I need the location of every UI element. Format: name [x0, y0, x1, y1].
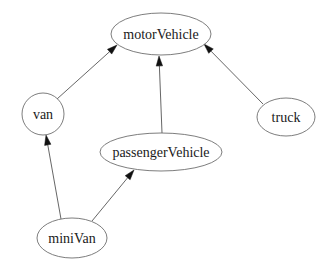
edge-line [48, 145, 61, 219]
node-miniVan: miniVan [37, 218, 107, 258]
edge-van-to-motorVehicle [57, 45, 117, 99]
edge-line [92, 178, 128, 221]
node-motorVehicle: motorVehicle [111, 13, 211, 55]
edge-line [159, 66, 162, 133]
edge-line [57, 52, 110, 99]
edge-truck-to-motorVehicle [204, 44, 263, 104]
node-label: truck [272, 110, 301, 125]
edges-group [45, 44, 263, 221]
arrowhead-icon [45, 135, 51, 145]
node-passengerVehicle: passengerVehicle [100, 133, 222, 171]
node-van: van [22, 93, 64, 135]
node-label: miniVan [48, 231, 95, 246]
edge-miniVan-to-passengerVehicle [92, 170, 134, 221]
arrowhead-icon [125, 170, 134, 180]
node-label: motorVehicle [123, 27, 198, 42]
node-label: van [33, 107, 53, 122]
edge-miniVan-to-van [45, 135, 61, 219]
arrowhead-icon [156, 56, 162, 66]
edge-line [211, 51, 263, 104]
node-truck: truck [257, 98, 315, 136]
nodes-group: motorVehiclevanpassengerVehicletruckmini… [22, 13, 315, 258]
node-label: passengerVehicle [112, 145, 209, 160]
class-hierarchy-diagram: motorVehiclevanpassengerVehicletruckmini… [0, 0, 335, 272]
edge-passengerVehicle-to-motorVehicle [156, 56, 162, 133]
